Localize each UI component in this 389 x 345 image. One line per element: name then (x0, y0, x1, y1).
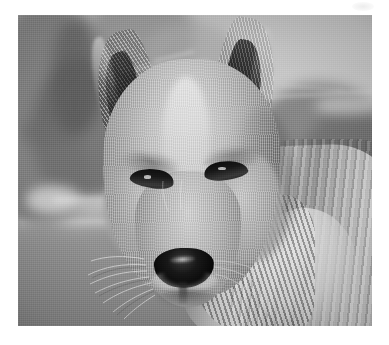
upper-lip (153, 289, 220, 308)
page-root: Dingo head portrait (0, 0, 389, 345)
dingo-subject (18, 15, 372, 326)
dingo-photograph (18, 15, 372, 326)
scanner-smudge-artifact (352, 2, 374, 11)
